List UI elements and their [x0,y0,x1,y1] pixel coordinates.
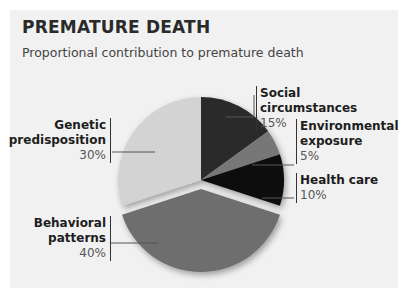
pie-slice-behavioral-patterns [122,189,280,272]
label-health-care: Health care 10% [296,173,378,203]
label-behavioral-patterns: Behavioral patterns 40% [34,216,111,261]
label-environmental-exposure: Environmental exposure 5% [296,119,399,164]
label-genetic-predisposition: Genetic predisposition 30% [9,118,111,163]
pie-slice-genetic-predisposition [118,97,201,206]
